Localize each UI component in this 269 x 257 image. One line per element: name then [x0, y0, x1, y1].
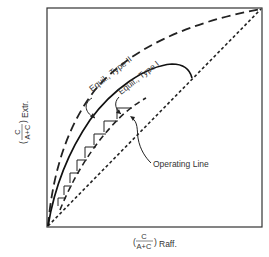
- svg-text:C: C: [141, 232, 147, 241]
- svg-text:): ): [154, 237, 157, 247]
- diagonal-line: [48, 9, 261, 226]
- svg-text:C: C: [13, 129, 22, 135]
- diagram-svg: Equil., Type II Equil., Type I Operating…: [0, 0, 269, 257]
- operating-line: [60, 98, 146, 210]
- svg-text:Extr.: Extr.: [20, 101, 30, 118]
- x-axis-label: ( C A+C ) Raff.: [133, 232, 177, 251]
- svg-text:A+C: A+C: [23, 124, 32, 139]
- svg-text:Raff.: Raff.: [159, 239, 177, 249]
- callout-operating-line: [132, 118, 151, 163]
- svg-text:A+C: A+C: [137, 242, 152, 251]
- svg-text:(: (: [133, 237, 136, 247]
- label-operating-line: Operating Line: [153, 159, 209, 169]
- svg-text:(: (: [18, 141, 28, 144]
- y-axis-label: ( C A+C ) Extr.: [13, 101, 32, 144]
- svg-text:): ): [18, 120, 28, 123]
- diagram-canvas: Equil., Type II Equil., Type I Operating…: [0, 0, 269, 257]
